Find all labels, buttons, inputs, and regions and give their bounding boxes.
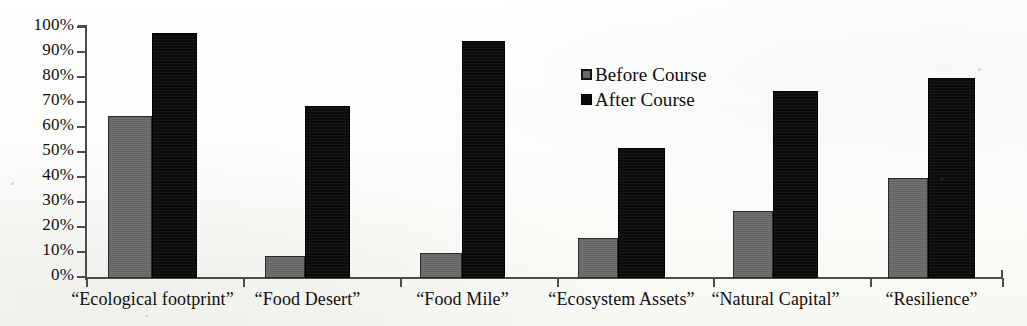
- bar-after-6: [928, 78, 975, 278]
- bar-after-1: [152, 33, 197, 278]
- legend-item-after: After Course: [581, 87, 707, 112]
- x-axis-tick: [1002, 278, 1004, 287]
- x-axis-tick: [400, 278, 402, 287]
- x-axis-tick: [557, 278, 559, 287]
- bar-before-2: [265, 256, 305, 279]
- y-axis-tick-label: 50%: [2, 140, 74, 160]
- x-axis-category-label-5: “Natural Capital”: [711, 289, 839, 310]
- legend-swatch-before-icon: [581, 69, 592, 80]
- x-axis-category-label-3: “Food Mile”: [416, 289, 509, 310]
- legend-swatch-after-icon: [581, 94, 592, 105]
- bar-before-6: [888, 178, 928, 278]
- y-axis-tick-label: 90%: [2, 40, 74, 60]
- bar-after-2: [305, 106, 350, 279]
- bar-before-1: [108, 116, 152, 279]
- bar-before-4: [578, 238, 618, 278]
- y-axis-tick-label: 70%: [2, 90, 74, 110]
- x-axis-tick: [243, 278, 245, 287]
- y-axis-tick: [77, 201, 86, 203]
- bar-before-5: [733, 211, 773, 279]
- bar-chart: 0%10%20%30%40%50%60%70%80%90%100% Before…: [0, 0, 1027, 326]
- y-axis-tick-label: 20%: [2, 215, 74, 235]
- y-axis-tick-label: 0%: [2, 265, 74, 285]
- bar-after-5: [773, 91, 818, 279]
- y-axis-tick: [77, 126, 86, 128]
- y-axis-tick: [77, 51, 86, 53]
- bar-after-4: [618, 148, 665, 278]
- y-axis-tick-label: 40%: [2, 165, 74, 185]
- y-axis-tick-label: 10%: [2, 240, 74, 260]
- x-axis-category-label-6: “Resilience”: [885, 289, 977, 310]
- legend-label-before: Before Course: [595, 62, 707, 87]
- plot-area: [86, 28, 1002, 278]
- y-axis-tick: [77, 76, 86, 78]
- legend-label-after: After Course: [595, 87, 695, 112]
- y-axis-tick-label: 80%: [2, 65, 74, 85]
- x-axis-tick: [870, 278, 872, 287]
- bar-before-3: [420, 253, 462, 278]
- y-axis-tick: [77, 226, 86, 228]
- x-axis-tick: [86, 278, 88, 287]
- x-axis-tick: [713, 278, 715, 287]
- x-axis-category-label-1: “Ecological footprint”: [71, 289, 234, 310]
- y-axis-tick: [77, 26, 86, 28]
- y-axis-tick: [77, 251, 86, 253]
- x-axis-category-label-4: “Ecosystem Assets”: [548, 289, 694, 310]
- x-axis-category-label-2: “Food Desert”: [255, 289, 361, 310]
- y-axis-tick: [77, 101, 86, 103]
- chart-legend: Before Course After Course: [581, 62, 707, 112]
- y-axis-tick-label: 100%: [2, 15, 74, 35]
- y-axis-tick: [77, 151, 86, 153]
- y-axis-tick-label: 30%: [2, 190, 74, 210]
- y-axis-tick-label: 60%: [2, 115, 74, 135]
- legend-item-before: Before Course: [581, 62, 707, 87]
- paper-speck: [145, 315, 148, 317]
- bar-after-3: [462, 41, 505, 279]
- y-axis-tick: [77, 276, 86, 278]
- y-axis-tick: [77, 176, 86, 178]
